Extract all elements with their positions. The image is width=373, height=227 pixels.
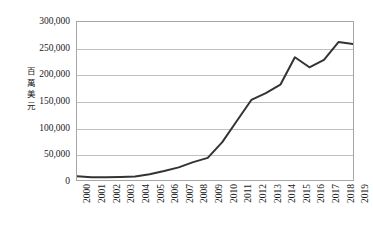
- x-tick-label: 2012: [258, 184, 268, 203]
- x-tick-label: 2008: [199, 184, 209, 203]
- x-tick-label: 2015: [302, 184, 312, 203]
- series-line: [77, 22, 353, 180]
- x-tick-label: 2018: [346, 184, 356, 203]
- x-tick-label: 2011: [243, 184, 253, 203]
- x-tick-label: 2001: [97, 184, 107, 203]
- x-axis-tick-labels: 2000200120022003200420052006200720082009…: [76, 182, 354, 227]
- x-tick-label: 2009: [214, 184, 224, 203]
- x-tick-label: 2016: [316, 184, 326, 203]
- series-polyline: [77, 42, 353, 177]
- x-tick-label: 2000: [82, 184, 92, 203]
- y-tick-label: 50,000: [26, 149, 74, 159]
- y-tick-label: 250,000: [26, 43, 74, 53]
- line-chart-figure: 百 萬 美 元 050,000100,000150,000200,000250,…: [0, 0, 373, 227]
- x-tick-label: 2006: [170, 184, 180, 203]
- y-tick-label: 150,000: [26, 96, 74, 106]
- x-tick-label: 2014: [287, 184, 297, 203]
- y-axis-tick-labels: 050,000100,000150,000200,000250,000300,0…: [26, 21, 74, 181]
- y-tick-label: 0: [26, 176, 74, 186]
- x-tick-label: 2019: [360, 184, 370, 203]
- x-tick-label: 2005: [156, 184, 166, 203]
- plot-area: [76, 21, 354, 181]
- x-tick-label: 2003: [126, 184, 136, 203]
- y-tick-label: 200,000: [26, 69, 74, 79]
- y-tick-label: 100,000: [26, 123, 74, 133]
- x-tick-label: 2007: [185, 184, 195, 203]
- x-tick-label: 2010: [229, 184, 239, 203]
- y-tick-label: 300,000: [26, 16, 74, 26]
- x-tick-label: 2002: [112, 184, 122, 203]
- x-tick-label: 2013: [273, 184, 283, 203]
- x-tick-label: 2004: [141, 184, 151, 203]
- x-tick-label: 2017: [331, 184, 341, 203]
